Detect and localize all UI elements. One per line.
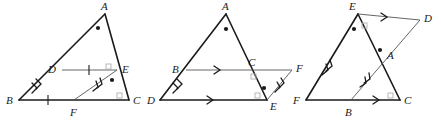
- vertex-label-f: F: [295, 62, 303, 74]
- vertex-label-e: E: [348, 0, 356, 12]
- segment-fe: [74, 70, 117, 100]
- arrow-marks-fe: [322, 60, 332, 75]
- angle-dot-a: [224, 27, 228, 31]
- vertex-label-a: A: [221, 0, 229, 12]
- triangles-diagram: A B C D E F: [0, 0, 441, 122]
- vertex-label-b: B: [172, 63, 179, 75]
- angle-dot-a: [378, 48, 382, 52]
- vertex-label-d: D: [146, 94, 155, 106]
- side-ef: [306, 14, 358, 100]
- vertex-label-c: C: [133, 94, 141, 106]
- right-angle-square-c: [117, 93, 122, 98]
- right-angle-square-c: [388, 93, 393, 98]
- right-angle-square-e: [106, 64, 111, 69]
- side-ae: [226, 14, 267, 100]
- figure-board: A B C D E F: [0, 0, 441, 122]
- arrow-marks-fe: [93, 78, 102, 91]
- vertex-label-f: F: [69, 106, 77, 118]
- panel-1-triangle-abc: A B C D E F: [6, 0, 141, 118]
- panel-3-triangle-efc: E D F C B A: [292, 0, 432, 118]
- vertex-label-f: F: [292, 94, 300, 106]
- side-ad: [160, 14, 226, 100]
- vertex-label-a: A: [100, 0, 108, 12]
- angle-dot-a: [96, 26, 100, 30]
- vertex-label-c: C: [404, 94, 412, 106]
- vertex-label-b: B: [6, 94, 13, 106]
- segment-bd: [351, 20, 420, 100]
- vertex-label-b: B: [345, 106, 352, 118]
- vertex-label-d: D: [47, 63, 56, 75]
- arrow-mark-ed: [381, 13, 387, 21]
- angle-dot-e-interior: [262, 86, 266, 90]
- arrow-marks-ef: [275, 78, 284, 92]
- right-angle-square-e: [255, 93, 260, 98]
- vertex-label-a: A: [386, 49, 394, 61]
- segment-ed: [358, 14, 420, 20]
- angle-dot-e-interior: [110, 78, 114, 82]
- vertex-label-c: C: [248, 56, 256, 68]
- vertex-label-e: E: [269, 100, 277, 112]
- vertex-label-e: E: [121, 63, 129, 75]
- panel-2-triangle-ade: A B C D E F: [146, 0, 303, 112]
- vertex-label-d: D: [423, 12, 432, 24]
- angle-dot-e: [352, 27, 356, 31]
- arrow-marks-ba: [360, 73, 370, 87]
- side-ac: [105, 14, 129, 100]
